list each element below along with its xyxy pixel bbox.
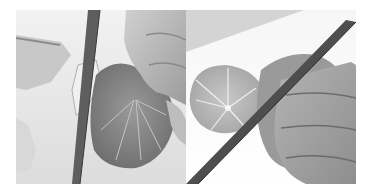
photo-right-slicing-citrus: Hand holding a citrus fruit with a knife…: [186, 10, 356, 184]
slicing-scene-illustration: [186, 10, 356, 184]
hand-icon: [274, 62, 356, 184]
photo-left-peeling-citrus: Hand holding a peeled citrus fruit while…: [16, 10, 186, 184]
peeling-scene-illustration: [16, 10, 186, 184]
